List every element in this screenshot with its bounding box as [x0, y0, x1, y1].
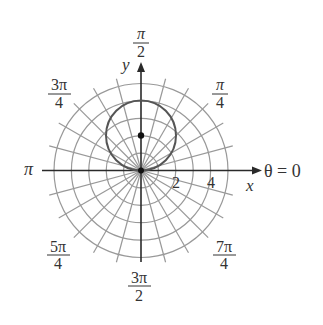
pi-label: π	[24, 159, 34, 179]
circle-center-point	[138, 132, 144, 138]
polar-plot: y x θ = 0 π 2 4 π 2 π 4 3π 4 5π 4 3π 2 7…	[0, 0, 323, 325]
numerator: 3π	[51, 76, 67, 93]
y-axis-label: y	[120, 55, 130, 74]
grid-spoke	[116, 79, 141, 171]
denominator: 2	[137, 43, 145, 60]
angle-label-7pi-over-4: 7π 4	[213, 238, 236, 272]
numerator: π	[137, 25, 146, 42]
denominator: 4	[216, 94, 224, 111]
radial-tick-4: 4	[207, 174, 215, 191]
grid-spoke	[116, 171, 141, 263]
numerator: 7π	[216, 238, 232, 255]
angle-label-3pi-over-2: 3π 2	[128, 269, 151, 304]
denominator: 4	[54, 255, 62, 272]
x-axis-label: x	[245, 176, 254, 195]
axes	[42, 62, 262, 262]
y-axis-arrow-icon	[137, 62, 145, 72]
angle-label-pi-over-4: π 4	[212, 76, 228, 111]
denominator: 2	[135, 287, 143, 304]
angle-label-pi-over-2: π 2	[133, 25, 149, 60]
grid-spoke	[141, 171, 233, 196]
angle-label-3pi-over-4: 3π 4	[48, 76, 71, 111]
pole-point	[138, 168, 144, 174]
grid-spoke	[49, 171, 141, 196]
theta-zero-label: θ = 0	[264, 161, 301, 181]
angle-label-5pi-over-4: 5π 4	[47, 238, 70, 272]
denominator: 4	[55, 94, 63, 111]
x-axis-arrow-icon	[252, 167, 262, 175]
grid-spoke	[141, 171, 166, 263]
numerator: π	[216, 76, 225, 93]
radial-tick-2: 2	[172, 174, 180, 191]
numerator: 3π	[131, 269, 147, 286]
grid-spoke	[141, 79, 166, 171]
numerator: 5π	[50, 238, 66, 255]
denominator: 4	[220, 255, 228, 272]
